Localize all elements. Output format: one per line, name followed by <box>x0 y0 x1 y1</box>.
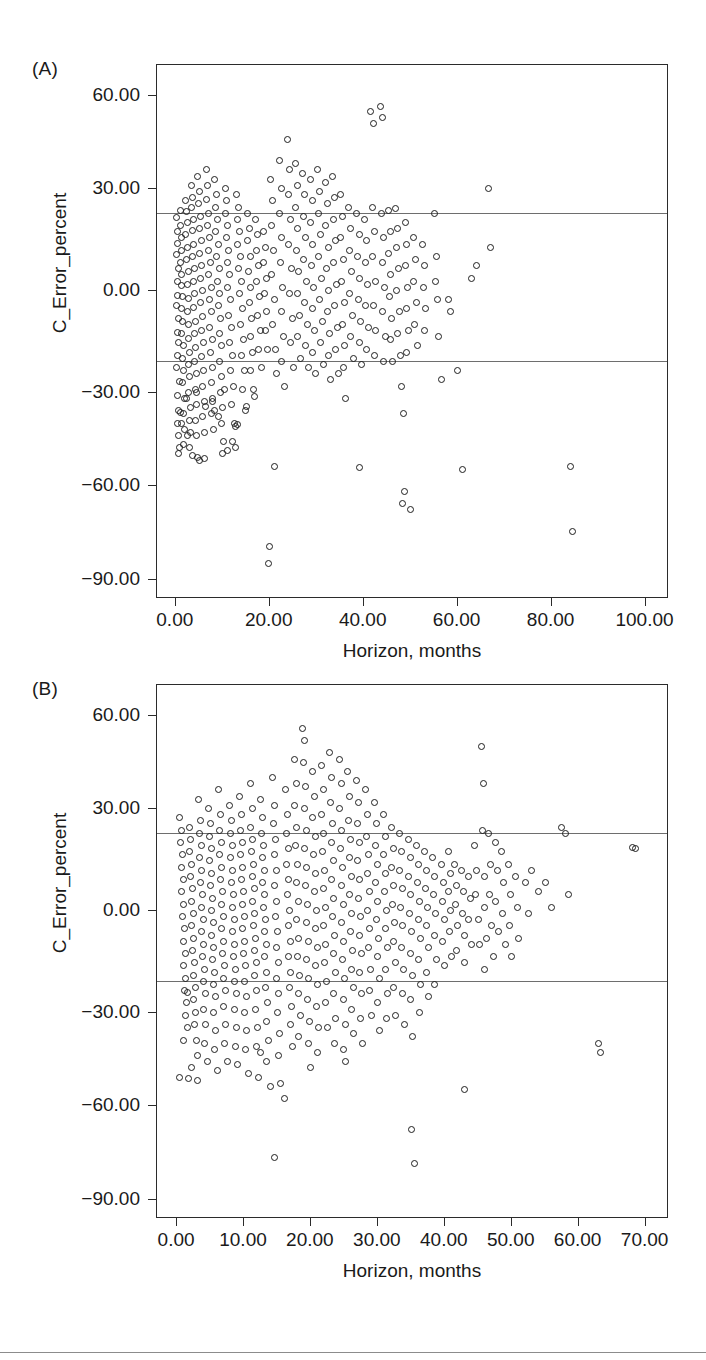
data-point <box>400 410 407 417</box>
data-point <box>320 786 327 793</box>
data-point <box>403 305 410 312</box>
data-point <box>268 222 275 229</box>
reference-line <box>157 213 667 214</box>
data-point <box>184 989 191 996</box>
data-point <box>429 854 436 861</box>
data-point <box>246 225 253 232</box>
data-point <box>174 392 181 399</box>
data-point <box>461 1086 468 1093</box>
data-point <box>260 842 267 849</box>
data-point <box>384 990 391 997</box>
data-point <box>191 1021 198 1028</box>
data-point <box>180 938 187 945</box>
data-point <box>301 805 308 812</box>
data-point <box>488 922 495 929</box>
data-point <box>365 324 372 331</box>
data-point <box>359 1040 366 1047</box>
data-point <box>302 234 309 241</box>
data-point <box>253 278 260 285</box>
data-point <box>294 861 301 868</box>
data-point <box>399 885 406 892</box>
data-point <box>569 528 576 535</box>
data-point <box>364 907 371 914</box>
data-point <box>216 358 223 365</box>
data-point <box>185 335 192 342</box>
data-point <box>431 932 438 939</box>
data-point <box>197 275 204 282</box>
y-tick-mark <box>148 808 156 809</box>
data-point <box>340 1046 347 1053</box>
data-point <box>198 842 205 849</box>
data-point <box>406 910 413 917</box>
data-point <box>192 417 199 424</box>
data-point <box>277 259 284 266</box>
data-point <box>182 975 189 982</box>
data-point <box>353 777 360 784</box>
data-point <box>204 182 211 189</box>
data-point <box>487 244 494 251</box>
data-point <box>548 904 555 911</box>
data-point <box>382 833 389 840</box>
data-point <box>356 275 363 282</box>
data-point <box>294 953 301 960</box>
data-point <box>454 922 461 929</box>
data-point <box>415 861 422 868</box>
data-point <box>358 361 365 368</box>
data-point <box>216 851 223 858</box>
data-point <box>297 355 304 362</box>
data-point <box>190 304 197 311</box>
data-point <box>303 827 310 834</box>
data-point <box>324 308 331 315</box>
data-point <box>309 305 316 312</box>
data-point <box>331 932 338 939</box>
data-point <box>216 265 223 272</box>
data-point <box>438 376 445 383</box>
data-point <box>190 910 197 917</box>
y-tick-mark <box>148 188 156 189</box>
data-point <box>390 882 397 889</box>
data-point <box>230 383 237 390</box>
y-tick-label: −90.00 <box>40 569 140 588</box>
data-point <box>192 318 199 325</box>
data-point <box>210 919 217 926</box>
data-point <box>451 861 458 868</box>
data-point <box>338 919 345 926</box>
data-point <box>400 966 407 973</box>
data-point <box>410 278 417 285</box>
data-point <box>331 302 338 309</box>
data-point <box>307 1064 314 1071</box>
data-point <box>320 361 327 368</box>
data-point <box>198 327 205 334</box>
data-point <box>234 241 241 248</box>
data-point <box>261 290 268 297</box>
data-point <box>388 315 395 322</box>
data-point <box>253 247 260 254</box>
data-point <box>257 1049 264 1056</box>
data-point <box>512 873 519 880</box>
data-point <box>312 962 319 969</box>
data-point <box>314 1049 321 1056</box>
data-point <box>218 342 225 349</box>
data-point <box>295 935 302 942</box>
data-point <box>228 817 235 824</box>
data-point <box>374 861 381 868</box>
data-point <box>238 278 245 285</box>
data-point <box>319 848 326 855</box>
data-point <box>383 907 390 914</box>
data-point <box>232 444 239 451</box>
data-point <box>417 981 424 988</box>
data-point <box>313 907 320 914</box>
data-point <box>200 978 207 985</box>
data-point <box>409 972 416 979</box>
data-point <box>178 330 185 337</box>
data-point <box>397 904 404 911</box>
data-point <box>389 358 396 365</box>
data-point <box>183 999 190 1006</box>
x-tick-mark <box>377 1218 378 1226</box>
data-point <box>401 1021 408 1028</box>
data-point <box>260 259 267 266</box>
data-point <box>432 910 439 917</box>
data-point <box>273 898 280 905</box>
data-point <box>180 342 187 349</box>
x-tick-mark <box>444 1218 445 1226</box>
